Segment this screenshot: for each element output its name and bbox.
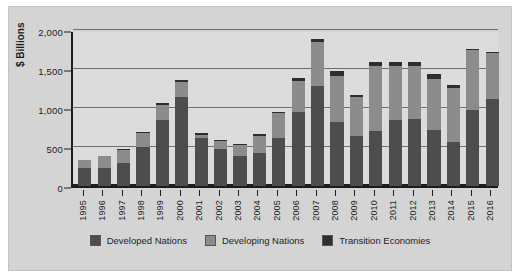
x-tick-mark-2005 — [277, 190, 278, 196]
bar-2005[interactable] — [272, 112, 285, 186]
bar-1997[interactable] — [117, 149, 130, 186]
x-tick-label-1995: 1995 — [78, 200, 88, 221]
x-tick-label-2004: 2004 — [252, 200, 262, 221]
y-tick-mark-0 — [64, 188, 71, 189]
bar-segment-developed-2016 — [486, 99, 499, 186]
x-tick-mark-2007 — [316, 190, 317, 196]
bar-2013[interactable] — [427, 74, 440, 186]
x-tick-mark-1999 — [160, 190, 161, 196]
y-tick-label-1500: 1,500 — [38, 66, 63, 77]
x-tick-label-2014: 2014 — [446, 200, 456, 221]
x-tick-label-2006: 2006 — [291, 200, 301, 221]
bar-segment-developing-2010 — [369, 66, 382, 132]
legend-item-developed[interactable]: Developed Nations — [90, 235, 187, 246]
x-tick-label-2012: 2012 — [408, 200, 418, 221]
bar-segment-developing-2003 — [233, 145, 246, 156]
bar-segment-developed-2013 — [427, 130, 440, 186]
bar-segment-developing-2000 — [175, 82, 188, 97]
bar-segment-developed-2000 — [175, 97, 188, 186]
x-tick-label-2013: 2013 — [427, 200, 437, 221]
legend-swatch-transition-icon — [322, 235, 333, 246]
bar-segment-developed-2012 — [408, 119, 421, 186]
x-tick-mark-1998 — [141, 190, 142, 196]
bar-segment-developed-2005 — [272, 138, 285, 186]
bar-segment-developed-1998 — [136, 147, 149, 186]
bar-segment-developed-1996 — [98, 168, 111, 186]
legend-item-developing[interactable]: Developing Nations — [205, 235, 304, 246]
bar-2007[interactable] — [311, 39, 324, 186]
bar-segment-developing-1999 — [156, 105, 169, 120]
y-tick-mark-2000 — [64, 32, 71, 33]
bar-2012[interactable] — [408, 62, 421, 186]
x-tick-label-2011: 2011 — [388, 200, 398, 220]
x-tick-mark-2014 — [451, 190, 452, 196]
x-tick-label-2007: 2007 — [311, 200, 321, 221]
bar-2003[interactable] — [233, 144, 246, 186]
bar-2002[interactable] — [214, 140, 227, 186]
bar-segment-developing-1997 — [117, 150, 130, 163]
x-tick-label-2015: 2015 — [466, 200, 476, 221]
plot-area — [71, 32, 498, 188]
bar-segment-developing-2006 — [292, 81, 305, 112]
x-tick-mark-1997 — [122, 190, 123, 196]
bar-segment-developed-2004 — [253, 153, 266, 186]
x-tick-mark-2001 — [199, 190, 200, 196]
y-tick-label-1000: 1,000 — [38, 105, 63, 116]
bar-segment-developing-2002 — [214, 141, 227, 148]
y-tick-label-2000: 2,000 — [38, 27, 63, 38]
x-tick-mark-1995 — [83, 190, 84, 196]
bar-1995[interactable] — [78, 160, 91, 187]
bar-segment-developing-2005 — [272, 113, 285, 137]
bar-segment-developed-2008 — [330, 122, 343, 186]
bar-2001[interactable] — [195, 133, 208, 186]
x-tick-mark-2008 — [335, 190, 336, 196]
bar-segment-developed-2015 — [466, 110, 479, 186]
x-tick-label-1998: 1998 — [136, 200, 146, 221]
bar-segment-developing-1996 — [98, 156, 111, 168]
bar-segment-developing-2011 — [389, 66, 402, 121]
legend-swatch-developing-icon — [205, 235, 216, 246]
bar-segment-developing-2014 — [447, 88, 460, 143]
bar-segment-developing-2004 — [253, 136, 266, 154]
y-tick-mark-1000 — [64, 110, 71, 111]
bar-segment-developed-1997 — [117, 163, 130, 186]
x-tick-label-2003: 2003 — [233, 200, 243, 221]
x-tick-label-2010: 2010 — [369, 200, 379, 221]
y-tick-mark-500 — [64, 149, 71, 150]
x-tick-mark-2010 — [374, 190, 375, 196]
bar-segment-developing-2016 — [486, 53, 499, 98]
bar-2016[interactable] — [486, 52, 499, 186]
bar-segment-developed-2009 — [350, 136, 363, 186]
bar-2008[interactable] — [330, 71, 343, 186]
bar-2000[interactable] — [175, 80, 188, 186]
bar-segment-developed-2001 — [195, 138, 208, 186]
bar-2015[interactable] — [466, 49, 479, 186]
bar-2010[interactable] — [369, 62, 382, 186]
bar-2014[interactable] — [447, 85, 460, 186]
x-tick-mark-2004 — [257, 190, 258, 196]
bar-2006[interactable] — [292, 78, 305, 186]
bar-1996[interactable] — [98, 156, 111, 186]
legend-item-transition[interactable]: Transition Economies — [322, 235, 430, 246]
bar-2004[interactable] — [253, 134, 266, 186]
bar-2009[interactable] — [350, 95, 363, 186]
bar-segment-developed-2007 — [311, 86, 324, 186]
bar-1999[interactable] — [156, 103, 169, 186]
bar-segment-developing-2013 — [427, 79, 440, 130]
x-tick-mark-2009 — [354, 190, 355, 196]
bar-segment-developing-2009 — [350, 97, 363, 136]
x-tick-label-2005: 2005 — [272, 200, 282, 221]
legend-swatch-developed-icon — [90, 235, 101, 246]
bar-segment-developing-2012 — [408, 66, 421, 119]
bar-2011[interactable] — [389, 62, 402, 186]
bar-segment-developed-2002 — [214, 149, 227, 186]
x-tick-mark-2003 — [238, 190, 239, 196]
bar-segment-developing-2007 — [311, 42, 324, 86]
x-tick-label-2000: 2000 — [175, 200, 185, 221]
x-tick-label-2009: 2009 — [349, 200, 359, 221]
x-tick-mark-2015 — [471, 190, 472, 196]
x-tick-mark-2002 — [219, 190, 220, 196]
chart-card: $ Billions 05001,0001,5002,000 199519961… — [8, 6, 512, 271]
bar-1998[interactable] — [136, 132, 149, 186]
bar-segment-developing-2015 — [466, 50, 479, 109]
